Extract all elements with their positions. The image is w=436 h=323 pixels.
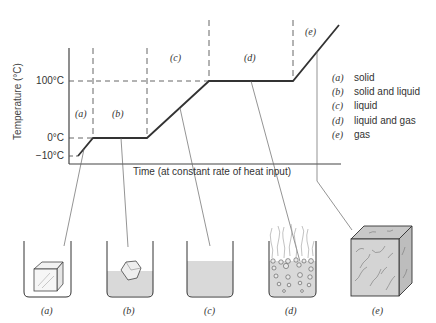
legend-key: (a) — [332, 71, 354, 85]
container-gas — [351, 226, 412, 296]
caption-c: (c) — [204, 305, 215, 316]
region-label-a: (a) — [75, 108, 87, 119]
pointer-c — [180, 108, 210, 246]
legend-label: solid and liquid — [354, 85, 420, 99]
legend-item: (c)liquid — [332, 99, 420, 113]
legend-item: (d)liquid and gas — [332, 114, 420, 128]
x-axis-label: Time (at constant rate of heat input) — [133, 166, 291, 177]
heating-curve-diagram — [0, 0, 436, 323]
pointer-b — [121, 138, 128, 247]
region-label-d: (d) — [244, 52, 256, 63]
legend-label: gas — [354, 128, 370, 142]
legend-label: liquid and gas — [354, 114, 416, 128]
region-label-b: (b) — [112, 108, 124, 119]
tick-label-100: 100°C — [20, 75, 64, 86]
legend-key: (e) — [332, 128, 354, 142]
legend-item: (b)solid and liquid — [332, 85, 420, 99]
legend-key: (d) — [332, 114, 354, 128]
region-label-c: (c) — [170, 52, 181, 63]
beaker-solid-liquid — [107, 241, 153, 297]
caption-b: (b) — [123, 305, 135, 316]
beaker-liquid — [187, 241, 233, 297]
region-label-e: (e) — [305, 26, 316, 37]
legend-label: solid — [354, 71, 375, 85]
caption-e: (e) — [372, 305, 383, 316]
heating-curve — [78, 25, 339, 156]
legend-label: liquid — [354, 99, 377, 113]
legend-key: (c) — [332, 99, 354, 113]
beaker-solid — [24, 241, 71, 297]
legend-item: (e)gas — [332, 128, 420, 142]
legend-item: (a)solid — [332, 71, 420, 85]
legend: (a)solid (b)solid and liquid (c)liquid (… — [332, 71, 420, 142]
legend-key: (b) — [332, 85, 354, 99]
caption-d: (d) — [285, 305, 297, 316]
tick-label-0: 0°C — [20, 132, 64, 143]
tick-label-minus10: −10°C — [20, 150, 64, 161]
caption-a: (a) — [41, 305, 53, 316]
